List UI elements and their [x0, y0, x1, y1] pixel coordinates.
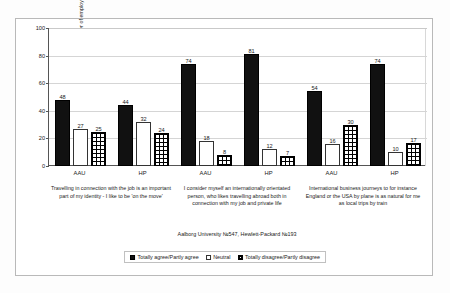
bar-slot: 48: [54, 28, 72, 166]
plot-area-wrapper: % of the total number of employees 02040…: [48, 28, 426, 166]
bar-slot: 16: [324, 28, 342, 166]
y-tick-mark-0: [46, 166, 49, 167]
bar-slot: 18: [198, 28, 216, 166]
chart-page: % of the total number of employees 02040…: [0, 0, 450, 293]
bar-value-label: 27: [77, 123, 83, 129]
bar-value-label: 74: [185, 58, 191, 64]
bar-group: 541630: [301, 28, 364, 166]
bar-value-label: 17: [410, 137, 416, 143]
bar-agree[interactable]: 81: [244, 54, 259, 166]
y-tick-label-100: 100: [36, 25, 45, 31]
bar-value-label: 44: [122, 99, 128, 105]
legend-swatch-neutral: [206, 255, 211, 260]
question-captions: Travelling in connection with the job is…: [48, 185, 426, 208]
y-tick-label-80: 80: [39, 53, 45, 59]
bar-agree[interactable]: 74: [181, 64, 196, 166]
question-caption: Travelling in connection with the job is…: [48, 185, 174, 208]
bar-agree[interactable]: 54: [307, 91, 322, 166]
legend-label: Neutral: [213, 254, 230, 260]
bar-slot: 74: [369, 28, 387, 166]
y-tick-label-40: 40: [39, 108, 45, 114]
x-axis-labels: AAUHPAAUHPAAUHP: [48, 170, 426, 176]
x-axis-label: AAU: [48, 170, 111, 176]
bar-value-label: 7: [286, 150, 289, 156]
bar-neutral[interactable]: 12: [262, 149, 277, 166]
bar-value-label: 8: [223, 149, 226, 155]
bar-slot: 25: [90, 28, 108, 166]
bar-disagree[interactable]: 8: [217, 155, 232, 166]
bar-value-label: 48: [59, 94, 65, 100]
bar-slot: 12: [261, 28, 279, 166]
bar-group-bars: 81127: [238, 28, 301, 166]
bar-disagree[interactable]: 30: [343, 125, 358, 166]
bar-slot: 81: [243, 28, 261, 166]
bar-group: 741017: [364, 28, 427, 166]
bar-slot: 27: [72, 28, 90, 166]
plot-area: 020406080100 482725443224741888112754163…: [48, 28, 426, 166]
question-caption: I consider myself an internationally ori…: [174, 185, 300, 208]
bar-group: 443224: [112, 28, 175, 166]
bar-slot: 10: [387, 28, 405, 166]
y-tick-label-20: 20: [39, 135, 45, 141]
bar-group-bars: 482725: [49, 28, 112, 166]
bar-slot: 7: [279, 28, 297, 166]
bar-value-label: 25: [95, 126, 101, 132]
bar-group-bars: 74188: [175, 28, 238, 166]
legend-item[interactable]: Neutral: [206, 254, 231, 260]
bar-value-label: 16: [329, 138, 335, 144]
bar-value-label: 81: [248, 48, 254, 54]
legend-item[interactable]: Totally agree/Partly agree: [130, 254, 199, 260]
bar-groups: 4827254432247418881127541630741017: [49, 28, 427, 166]
bar-value-label: 30: [347, 119, 353, 125]
bar-agree[interactable]: 74: [370, 64, 385, 166]
bar-value-label: 32: [140, 116, 146, 122]
bar-group-bars: 741017: [364, 28, 427, 166]
question-caption: International business journeys to for i…: [300, 185, 426, 208]
source-note: Aalborg University №547, Hewlett-Packard…: [48, 231, 426, 237]
bar-slot: 44: [117, 28, 135, 166]
chart-legend: Totally agree/Partly agreeNeutralTotally…: [124, 251, 326, 263]
x-axis-label: AAU: [300, 170, 363, 176]
bar-neutral[interactable]: 16: [325, 144, 340, 166]
y-tick-label-60: 60: [39, 80, 45, 86]
bar-group: 74188: [175, 28, 238, 166]
bar-group-bars: 541630: [301, 28, 364, 166]
bar-slot: 24: [153, 28, 171, 166]
bar-disagree[interactable]: 17: [406, 143, 421, 166]
x-axis-label: AAU: [174, 170, 237, 176]
bar-value-label: 18: [203, 135, 209, 141]
legend-swatch-disagree: [238, 255, 243, 260]
bar-value-label: 12: [266, 143, 272, 149]
x-axis-label: HP: [363, 170, 426, 176]
legend-item[interactable]: Totally disagree/Partly disagree: [238, 254, 320, 260]
bar-agree[interactable]: 44: [118, 105, 133, 166]
bar-neutral[interactable]: 32: [136, 122, 151, 166]
legend-label: Totally agree/Partly agree: [138, 254, 199, 260]
bar-disagree[interactable]: 25: [91, 132, 106, 167]
bar-value-label: 10: [392, 146, 398, 152]
bar-neutral[interactable]: 18: [199, 141, 214, 166]
bar-group-bars: 443224: [112, 28, 175, 166]
x-axis-label: HP: [237, 170, 300, 176]
bar-neutral[interactable]: 27: [73, 129, 88, 166]
y-tick-label-0: 0: [42, 163, 45, 169]
bar-value-label: 24: [158, 127, 164, 133]
bar-slot: 30: [342, 28, 360, 166]
legend-swatch-agree: [130, 255, 135, 260]
bar-slot: 17: [405, 28, 423, 166]
bar-slot: 8: [216, 28, 234, 166]
bar-disagree[interactable]: 24: [154, 133, 169, 166]
bar-slot: 54: [306, 28, 324, 166]
bar-value-label: 74: [374, 58, 380, 64]
bar-value-label: 54: [311, 85, 317, 91]
legend-label: Totally disagree/Partly disagree: [245, 254, 320, 260]
bar-group: 482725: [49, 28, 112, 166]
x-axis-label: HP: [111, 170, 174, 176]
bar-neutral[interactable]: 10: [388, 152, 403, 166]
bar-disagree[interactable]: 7: [280, 156, 295, 166]
bar-slot: 74: [180, 28, 198, 166]
bar-group: 81127: [238, 28, 301, 166]
bar-agree[interactable]: 48: [55, 100, 70, 166]
bar-slot: 32: [135, 28, 153, 166]
gridline-0: 0: [49, 166, 427, 167]
